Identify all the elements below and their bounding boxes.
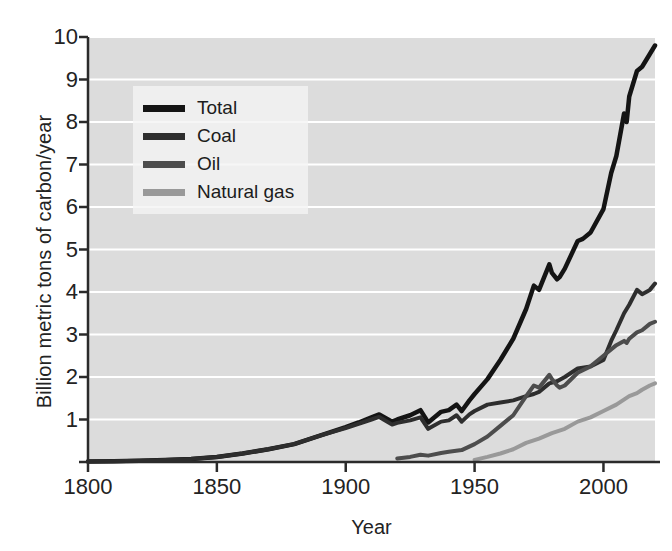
legend-swatch-icon (143, 161, 185, 168)
x-tick-label: 1850 (177, 474, 257, 500)
legend-item: Coal (143, 122, 294, 150)
legend-item: Total (143, 94, 294, 122)
x-axis-title: Year (88, 516, 655, 539)
plot-area (0, 0, 672, 551)
legend-swatch-icon (143, 189, 185, 196)
legend-label: Coal (197, 125, 236, 147)
legend-label: Oil (197, 153, 220, 175)
legend-label: Natural gas (197, 181, 294, 203)
x-tick-label: 1950 (435, 474, 515, 500)
legend-label: Total (197, 97, 237, 119)
legend-swatch-icon (143, 105, 185, 112)
legend-item: Natural gas (143, 178, 294, 206)
legend-item: Oil (143, 150, 294, 178)
x-tick-label: 2000 (563, 474, 643, 500)
x-tick-label: 1900 (306, 474, 386, 500)
carbon-emissions-chart: Billion metric tons of carbon/year 12345… (0, 0, 672, 551)
legend: TotalCoalOilNatural gas (133, 86, 308, 214)
x-axis-tick-labels: 18001850190019502000 (0, 474, 672, 508)
x-tick-label: 1800 (48, 474, 128, 500)
legend-swatch-icon (143, 133, 185, 140)
